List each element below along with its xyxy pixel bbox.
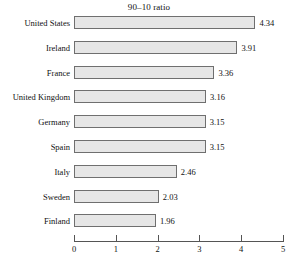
bar — [74, 66, 214, 79]
bar — [74, 90, 206, 103]
category-label: Finland — [0, 214, 70, 228]
bar-value-label: 2.03 — [163, 190, 178, 204]
bar — [74, 190, 159, 203]
category-label: United Kingdom — [0, 90, 70, 104]
x-axis-tick — [158, 235, 159, 242]
bar-row: United Kingdom3.16 — [0, 90, 298, 104]
bar-row: Finland1.96 — [0, 214, 298, 228]
x-axis-tick-label: 4 — [231, 244, 251, 254]
bar-row: United States4.34 — [0, 16, 298, 30]
bar-row: Germany3.15 — [0, 115, 298, 129]
bar-value-label: 3.15 — [210, 115, 225, 129]
category-label: Germany — [0, 115, 70, 129]
x-axis-tick-label: 2 — [148, 244, 168, 254]
bar-row: Ireland3.91 — [0, 41, 298, 55]
x-axis-tick-label: 5 — [273, 244, 293, 254]
bar-value-label: 3.36 — [218, 66, 233, 80]
x-axis-tick — [241, 235, 242, 242]
bar-chart: 90–10 ratio United States4.34Ireland3.91… — [0, 0, 298, 267]
category-label: Sweden — [0, 190, 70, 204]
bar — [74, 165, 177, 178]
x-axis-tick-label: 3 — [189, 244, 209, 254]
bar-value-label: 1.96 — [160, 214, 175, 228]
category-label: France — [0, 66, 70, 80]
x-axis-tick-label: 1 — [106, 244, 126, 254]
bar-value-label: 3.15 — [210, 140, 225, 154]
category-label: United States — [0, 16, 70, 30]
plot-area: United States4.34Ireland3.91France3.36Un… — [0, 14, 298, 229]
x-axis-line — [74, 241, 283, 242]
category-label: Spain — [0, 140, 70, 154]
bar — [74, 115, 206, 128]
bar-row: Italy2.46 — [0, 165, 298, 179]
bar — [74, 214, 156, 227]
x-axis-tick-label: 0 — [64, 244, 84, 254]
x-axis-tick — [74, 235, 75, 242]
x-axis-tick — [116, 235, 117, 242]
bar-value-label: 4.34 — [259, 16, 274, 30]
chart-title: 90–10 ratio — [0, 2, 298, 12]
bar-value-label: 3.91 — [241, 41, 256, 55]
bar — [74, 41, 237, 54]
x-axis: 012345 — [0, 229, 298, 267]
bar-row: France3.36 — [0, 66, 298, 80]
bar-row: Spain3.15 — [0, 140, 298, 154]
x-axis-tick — [283, 235, 284, 242]
bar-row: Sweden2.03 — [0, 190, 298, 204]
bar-value-label: 3.16 — [210, 90, 225, 104]
category-label: Italy — [0, 165, 70, 179]
bar — [74, 16, 255, 29]
bar — [74, 140, 206, 153]
category-label: Ireland — [0, 41, 70, 55]
bar-value-label: 2.46 — [181, 165, 196, 179]
x-axis-tick — [199, 235, 200, 242]
